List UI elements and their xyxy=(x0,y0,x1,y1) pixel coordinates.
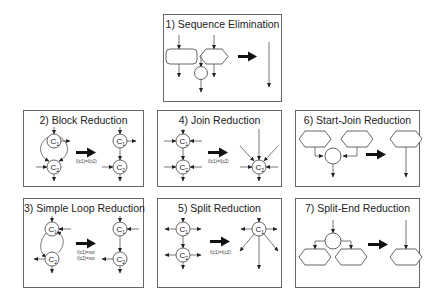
split-end-reduction-graphic xyxy=(296,199,421,289)
panel-start-join-reduction: 6) Start-Join Reduction xyxy=(295,110,420,187)
panel-split-reduction: 5) Split Reduction C1 C2 I(c1)=I(c2) C1 xyxy=(157,198,282,288)
split-reduction-graphic: C1 C2 I(c1)=I(c2) C1 xyxy=(158,199,283,289)
condition-label: I(c1)=I(c2) xyxy=(208,159,229,164)
panel-join-reduction: 4) Join Reduction C1 C2 I(c1)=I(c2) C2 xyxy=(157,110,282,187)
panel-split-end-reduction: 7) Split-End Reduction xyxy=(295,198,420,288)
start-join-reduction-graphic xyxy=(296,111,421,188)
join-reduction-graphic: C1 C2 I(c1)=I(c2) C2 xyxy=(158,111,283,188)
panel-block-reduction: 2) Block Reduction C1 C2 I(c1)=I(c2) C1 … xyxy=(23,110,144,187)
panel-sequence-elimination: 1) Sequence Elimination xyxy=(163,14,282,102)
panel-simple-loop-reduction: 3) Simple Loop Reduction C1 C2 I(c1)=xor… xyxy=(23,198,144,288)
condition-label: I(c1)=I(c2) xyxy=(210,250,231,255)
condition-label-c1: I(c1)=xor xyxy=(77,250,95,255)
block-reduction-graphic: C1 C2 I(c1)=I(c2) C1 C2 xyxy=(24,111,145,188)
sequence-elimination-graphic xyxy=(164,15,283,103)
simple-loop-reduction-graphic: C1 C2 I(c1)=xor I(c2)=xor C1 C2 xyxy=(24,199,145,289)
condition-label-c2: I(c2)=xor xyxy=(77,256,95,261)
condition-label: I(c1)=I(c2) xyxy=(76,159,97,164)
